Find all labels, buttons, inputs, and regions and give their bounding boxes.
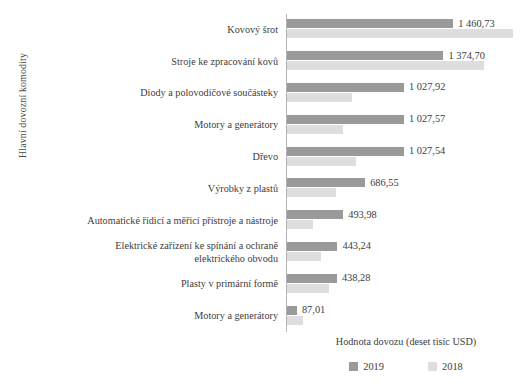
bar-row: Motory a generátory1 027,57 bbox=[26, 109, 526, 141]
category-label: Motory a generátory bbox=[28, 119, 278, 131]
plot-area: Kovový šrot1 460,73Stroje ke zpracování … bbox=[26, 14, 526, 332]
legend-label: 2019 bbox=[363, 361, 384, 372]
bar-2019 bbox=[287, 178, 365, 187]
bar-2019 bbox=[287, 242, 337, 251]
bar-group: 1 027,54 bbox=[287, 141, 526, 173]
bar-2019 bbox=[287, 115, 404, 124]
bar-2018 bbox=[287, 252, 321, 261]
bar-rows: Kovový šrot1 460,73Stroje ke zpracování … bbox=[26, 14, 526, 332]
chart-legend: 20192018 bbox=[286, 361, 526, 372]
bar-2018 bbox=[287, 125, 343, 134]
value-label: 443,24 bbox=[337, 240, 371, 251]
value-label: 87,01 bbox=[297, 304, 325, 315]
value-label: 1 374,70 bbox=[443, 50, 484, 61]
bar-2018 bbox=[287, 93, 352, 102]
category-label: Kovový šrot bbox=[28, 24, 278, 36]
bar-group: 1 374,70 bbox=[287, 46, 526, 78]
legend-label: 2018 bbox=[442, 361, 463, 372]
bar-group: 686,55 bbox=[287, 173, 526, 205]
category-label: Motory a generátory bbox=[28, 310, 278, 322]
bar-2018 bbox=[287, 316, 303, 325]
bar-row: Motory a generátory87,01 bbox=[26, 300, 526, 332]
bar-row: Plasty v primární formě438,28 bbox=[26, 268, 526, 300]
category-label: Stroje ke zpracování kovů bbox=[28, 55, 278, 67]
bar-group: 438,28 bbox=[287, 268, 526, 300]
bar-2018 bbox=[287, 157, 356, 166]
value-label: 1 027,57 bbox=[404, 113, 445, 124]
category-label: Výrobky z plastů bbox=[28, 183, 278, 195]
bar-row: Automatické řídicí a měřicí přístroje a … bbox=[26, 205, 526, 237]
bar-row: Stroje ke zpracování kovů1 374,70 bbox=[26, 46, 526, 78]
value-label: 438,28 bbox=[337, 272, 371, 283]
bar-2018 bbox=[287, 188, 336, 197]
bar-2019 bbox=[287, 83, 404, 92]
bar-group: 87,01 bbox=[287, 300, 526, 332]
bar-2018 bbox=[287, 284, 329, 293]
bar-2018 bbox=[287, 61, 484, 70]
bar-2019 bbox=[287, 19, 453, 28]
category-label: Elektrické zařízení ke spínání a ochraně… bbox=[28, 240, 278, 265]
bar-2019 bbox=[287, 210, 343, 219]
bar-row: Elektrické zařízení ke spínání a ochraně… bbox=[26, 237, 526, 269]
value-label: 1 460,73 bbox=[453, 18, 494, 29]
bar-2018 bbox=[287, 220, 313, 229]
bar-group: 1 460,73 bbox=[287, 14, 526, 46]
category-label: Diody a polovodičové součásteky bbox=[28, 87, 278, 99]
legend-swatch-icon bbox=[349, 362, 358, 371]
bar-2019 bbox=[287, 274, 337, 283]
x-axis-title: Hodnota dovozu (deset tisíc USD) bbox=[286, 336, 526, 347]
bar-row: Výrobky z plastů686,55 bbox=[26, 173, 526, 205]
bar-2019 bbox=[287, 51, 443, 60]
bar-group: 443,24 bbox=[287, 237, 526, 269]
bar-group: 493,98 bbox=[287, 205, 526, 237]
value-label: 493,98 bbox=[343, 209, 377, 220]
bar-row: Kovový šrot1 460,73 bbox=[26, 14, 526, 46]
category-label: Automatické řídicí a měřicí přístroje a … bbox=[28, 214, 278, 226]
bar-chart: Hlavní dovozní komodity Kovový šrot1 460… bbox=[0, 0, 526, 389]
bar-2018 bbox=[287, 29, 513, 38]
bar-row: Diody a polovodičové součásteky1 027,92 bbox=[26, 78, 526, 110]
bar-group: 1 027,57 bbox=[287, 109, 526, 141]
legend-item-2019[interactable]: 2019 bbox=[349, 361, 384, 372]
bar-row: Dřevo1 027,54 bbox=[26, 141, 526, 173]
legend-swatch-icon bbox=[428, 362, 437, 371]
category-label: Plasty v primární formě bbox=[28, 278, 278, 290]
bar-2019 bbox=[287, 306, 297, 315]
value-label: 1 027,92 bbox=[404, 81, 445, 92]
value-label: 1 027,54 bbox=[404, 145, 445, 156]
bar-group: 1 027,92 bbox=[287, 78, 526, 110]
value-label: 686,55 bbox=[365, 177, 399, 188]
bar-2019 bbox=[287, 147, 404, 156]
legend-item-2018[interactable]: 2018 bbox=[428, 361, 463, 372]
category-label: Dřevo bbox=[28, 151, 278, 163]
